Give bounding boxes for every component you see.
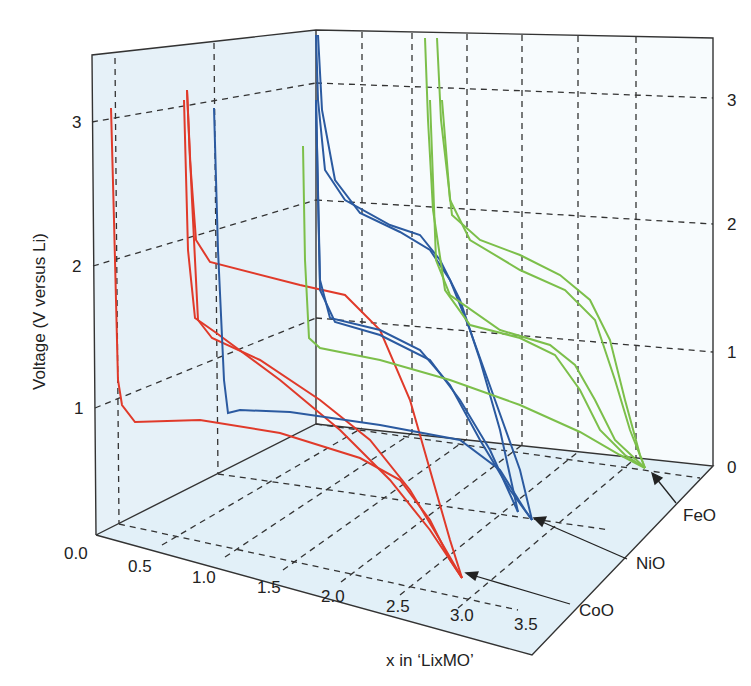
y-tick-left-2: 2 — [72, 257, 81, 276]
x-tick-1-0: 1.0 — [192, 568, 216, 587]
x-tick-2-0: 2.0 — [321, 587, 345, 606]
x-tick-1-5: 1.5 — [257, 578, 281, 597]
x-tick-0-5: 0.5 — [128, 557, 152, 576]
x-tick-3-5: 3.5 — [514, 615, 538, 634]
y-tick-left-1: 1 — [74, 399, 83, 418]
back-wall — [316, 30, 713, 466]
chart-canvas: 3 2 1 3 2 1 0 0.0 0.5 1.0 1.5 2.0 2.5 3.… — [0, 0, 751, 686]
y-tick-right-2: 2 — [727, 215, 736, 234]
y-axis-title: Voltage (V versus Li) — [30, 233, 49, 390]
y-tick-right-0: 0 — [727, 458, 736, 477]
x-tick-0-0: 0.0 — [64, 544, 88, 563]
label-nio: NiO — [636, 554, 665, 573]
label-feo: FeO — [683, 506, 716, 525]
y-tick-left-3: 3 — [72, 113, 81, 132]
x-axis-title: x in ‘LixMO’ — [386, 651, 474, 670]
x-tick-3-0: 3.0 — [450, 606, 474, 625]
y-tick-right-1: 1 — [727, 343, 736, 362]
x-tick-2-5: 2.5 — [386, 597, 410, 616]
label-coo: CoO — [579, 601, 614, 620]
y-tick-right-3: 3 — [727, 91, 736, 110]
